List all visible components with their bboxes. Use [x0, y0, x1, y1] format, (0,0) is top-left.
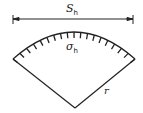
stress-label: σh: [66, 41, 78, 55]
radius-label: r: [104, 86, 109, 96]
sector-diagram: Sh σh r: [0, 0, 143, 113]
span-label: Sh: [66, 3, 78, 17]
